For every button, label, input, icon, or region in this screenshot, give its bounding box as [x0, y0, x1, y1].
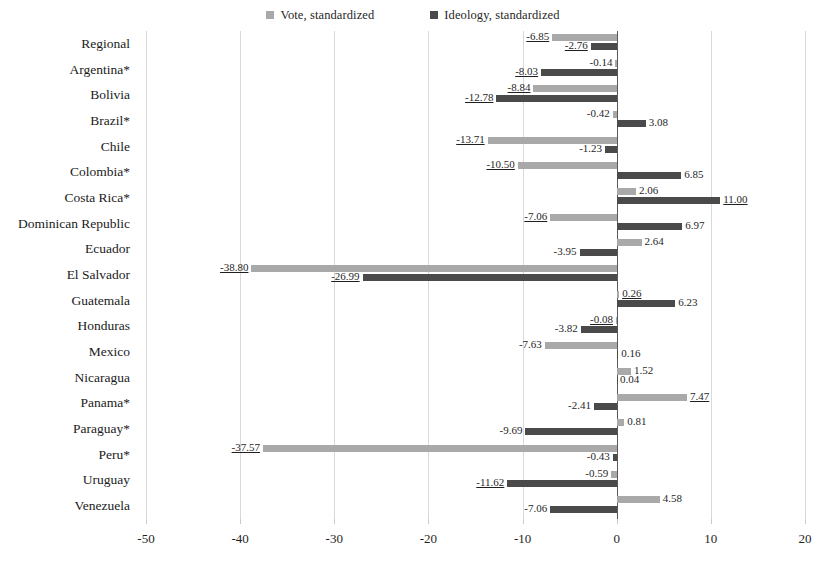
bar-vote	[545, 342, 617, 349]
chart-row: 0.266.23	[146, 288, 805, 314]
bar-value-label: -7.06	[524, 503, 547, 513]
bar-value-label: 6.97	[685, 220, 704, 230]
category-label: Mexico	[0, 345, 130, 359]
bar-value-label: 7.47	[690, 391, 709, 401]
bar-ideology	[550, 506, 616, 513]
bar-ideology	[617, 120, 646, 127]
category-label: Panama*	[0, 396, 130, 410]
bar-value-label: -6.85	[526, 31, 549, 41]
bar-value-label: 6.23	[678, 297, 697, 307]
bar-value-label: -9.69	[500, 425, 523, 435]
bar-value-label: -11.62	[476, 477, 504, 487]
bar-vote	[617, 239, 642, 246]
x-tick-mark	[240, 519, 241, 524]
bar-ideology	[594, 403, 617, 410]
bar-vote	[263, 445, 617, 452]
bar-value-label: -38.80	[220, 262, 248, 272]
bar-value-label: -2.76	[565, 40, 588, 50]
chart-row: 2.64-3.95	[146, 236, 805, 262]
category-label: Bolivia	[0, 88, 130, 102]
bar-value-label: -0.08	[590, 314, 613, 324]
bar-value-label: -8.84	[508, 82, 531, 92]
category-axis-labels: RegionalArgentina*BoliviaBrazil*ChileCol…	[0, 31, 138, 519]
chart-row: -6.85-2.76	[146, 31, 805, 57]
chart-container: Vote, standardized Ideology, standardize…	[0, 0, 826, 567]
gridline	[805, 31, 806, 519]
bar-ideology	[507, 480, 616, 487]
bar-value-label: -12.78	[465, 92, 493, 102]
legend-label-ideology: Ideology, standardized	[444, 8, 559, 23]
bar-ideology	[617, 300, 676, 307]
plot-area: -6.85-2.76-0.14-8.03-8.84-12.78-0.423.08…	[146, 31, 805, 519]
bar-ideology	[363, 274, 617, 281]
bar-ideology	[496, 95, 616, 102]
bar-vote	[616, 317, 617, 324]
bar-value-label: 3.08	[649, 117, 668, 127]
bar-ideology	[613, 454, 617, 461]
x-tick-label: -20	[420, 531, 437, 547]
category-label: Regional	[0, 37, 130, 51]
bar-value-label: 0.81	[627, 416, 646, 426]
bar-vote	[617, 291, 619, 298]
bar-value-label: 0.16	[621, 348, 640, 358]
chart-row: -8.84-12.78	[146, 82, 805, 108]
bar-ideology	[525, 428, 616, 435]
chart-row: -0.59-11.62	[146, 468, 805, 494]
category-label: Honduras	[0, 319, 130, 333]
bar-ideology	[541, 69, 617, 76]
chart-row: 1.520.04	[146, 365, 805, 391]
bar-value-label: -26.99	[331, 271, 359, 281]
category-label: Paraguay*	[0, 422, 130, 436]
bar-value-label: -0.42	[587, 108, 610, 118]
x-tick-label: -50	[137, 531, 154, 547]
bar-value-label: -10.50	[486, 159, 514, 169]
bar-value-label: 2.64	[645, 236, 664, 246]
x-tick-label: 10	[704, 531, 717, 547]
bar-ideology	[617, 197, 721, 204]
category-label: Ecuador	[0, 242, 130, 256]
chart-row: -0.423.08	[146, 108, 805, 134]
bar-value-label: -7.63	[519, 339, 542, 349]
chart-row: -37.57-0.43	[146, 442, 805, 468]
x-axis: -50-40-30-20-1001020	[146, 519, 805, 549]
chart-row: -38.80-26.99	[146, 262, 805, 288]
bar-vote	[611, 471, 617, 478]
x-tick-mark	[523, 519, 524, 524]
category-label: Argentina*	[0, 63, 130, 77]
chart-legend: Vote, standardized Ideology, standardize…	[0, 4, 826, 26]
category-label: Guatemala	[0, 294, 130, 308]
bar-vote	[613, 111, 617, 118]
bar-ideology	[605, 146, 617, 153]
chart-row: -0.08-3.82	[146, 314, 805, 340]
bar-vote	[617, 188, 636, 195]
bar-value-label: 2.06	[639, 185, 658, 195]
bar-vote	[617, 496, 660, 503]
x-tick-mark	[805, 519, 806, 524]
bar-value-label: -8.03	[515, 66, 538, 76]
bar-vote	[617, 419, 625, 426]
bar-value-label: 11.00	[723, 194, 747, 204]
x-tick-label: -10	[514, 531, 531, 547]
x-tick-mark	[617, 519, 618, 524]
bar-vote	[615, 60, 616, 67]
bar-value-label: -1.23	[579, 143, 602, 153]
x-tick-mark	[146, 519, 147, 524]
bar-vote	[533, 85, 616, 92]
chart-row: 4.58-7.06	[146, 493, 805, 519]
category-label: Colombia*	[0, 165, 130, 179]
bar-value-label: -0.14	[589, 57, 612, 67]
bar-value-label: 4.58	[663, 493, 682, 503]
legend-swatch-vote-icon	[266, 11, 274, 19]
category-label: Chile	[0, 140, 130, 154]
legend-swatch-ideology-icon	[430, 11, 438, 19]
bar-ideology	[581, 326, 617, 333]
chart-row: -0.14-8.03	[146, 57, 805, 83]
bar-vote	[251, 265, 616, 272]
x-tick-mark	[334, 519, 335, 524]
x-tick-label: 20	[799, 531, 812, 547]
bar-value-label: -0.59	[585, 468, 608, 478]
bar-ideology	[617, 377, 618, 384]
chart-row: -10.506.85	[146, 159, 805, 185]
bar-value-label: -0.43	[587, 451, 610, 461]
legend-label-vote: Vote, standardized	[280, 8, 374, 23]
